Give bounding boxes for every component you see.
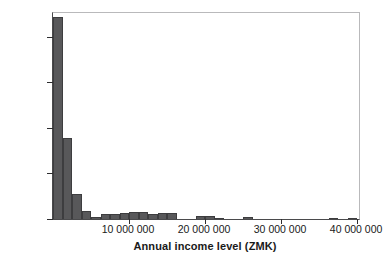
y-axis-tick	[47, 128, 53, 129]
histogram-bar	[243, 217, 253, 219]
histogram-bar	[72, 194, 82, 219]
y-axis-tick	[47, 219, 53, 220]
histogram-bar	[129, 212, 139, 219]
histogram-bar	[110, 214, 120, 219]
x-axis-tick-label: 10 000 000	[102, 224, 155, 235]
histogram-bar	[167, 213, 177, 219]
histogram-bar	[215, 218, 225, 220]
y-axis-tick	[47, 82, 53, 83]
histogram-bar	[205, 216, 215, 219]
histogram-bar	[53, 17, 63, 219]
x-axis-title: Annual income level (ZMK)	[52, 240, 358, 252]
histogram-bar	[101, 214, 111, 219]
plot-area	[52, 12, 360, 220]
histogram-bar	[148, 214, 158, 219]
histogram-bar	[82, 211, 92, 219]
histogram-bar	[329, 218, 339, 220]
histogram-bar	[196, 216, 206, 219]
y-axis-tick	[47, 37, 53, 38]
x-axis-tick-label: 20 000 000	[178, 224, 231, 235]
histogram-bar	[120, 213, 130, 219]
histogram-bar	[91, 217, 101, 219]
bars-layer	[53, 13, 359, 219]
x-axis-tick-label: 40 000 000	[330, 224, 383, 235]
histogram-bar	[139, 212, 149, 219]
histogram-figure: Number of households 050100150200 10 000…	[0, 0, 387, 266]
x-axis-tick-label: 30 000 000	[254, 224, 307, 235]
y-axis-tick	[47, 173, 53, 174]
histogram-bar	[63, 138, 73, 219]
histogram-bar	[348, 218, 358, 220]
histogram-bar	[158, 213, 168, 219]
